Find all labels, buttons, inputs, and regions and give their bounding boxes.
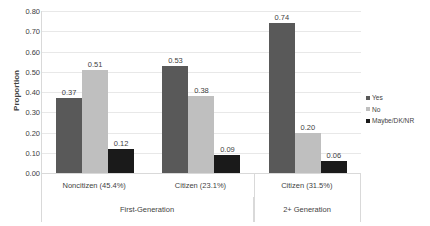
y-axis-tick-label: 0.80 bbox=[18, 7, 40, 16]
y-axis-tick-label: 0.60 bbox=[18, 47, 40, 56]
y-axis-tick-labels: 0.800.700.600.500.400.300.200.100.00 bbox=[18, 0, 40, 226]
category-group-label: 2+ Generation bbox=[253, 197, 360, 222]
bar-groups: 0.370.510.120.530.380.090.740.200.06 bbox=[42, 11, 361, 173]
bar-slot: 0.20 bbox=[295, 11, 321, 173]
bar-value-label: 0.12 bbox=[103, 139, 139, 148]
bar-slot: 0.51 bbox=[82, 11, 108, 173]
group-axis-row: First-Generation2+ Generation bbox=[41, 197, 360, 222]
plot-area: 0.370.510.120.530.380.090.740.200.06 bbox=[41, 11, 360, 173]
y-axis-tick-label: 0.20 bbox=[18, 128, 40, 137]
square-marker-light-gray bbox=[366, 107, 370, 111]
category-group-label: First-Generation bbox=[41, 197, 253, 222]
axis-separator bbox=[41, 173, 42, 222]
bar-slot: 0.09 bbox=[214, 11, 240, 173]
bar-slot: 0.06 bbox=[321, 11, 347, 173]
bar-value-label: 0.09 bbox=[209, 145, 245, 154]
bar[interactable] bbox=[321, 161, 347, 173]
bar[interactable] bbox=[214, 155, 240, 173]
y-axis-tick-label: 0.70 bbox=[18, 27, 40, 36]
y-axis-tick-label: 0.30 bbox=[18, 108, 40, 117]
bar[interactable] bbox=[82, 70, 108, 173]
y-axis-tick-label: 0.10 bbox=[18, 148, 40, 157]
square-marker-dark-gray bbox=[366, 96, 370, 100]
legend-label: No bbox=[372, 106, 380, 113]
bar-group-inner: 0.740.200.06 bbox=[269, 11, 347, 173]
legend-label: Maybe/DK/NR bbox=[372, 117, 414, 124]
legend-item[interactable]: Maybe/DK/NR bbox=[366, 117, 414, 124]
y-axis-tick-label: 0.40 bbox=[18, 88, 40, 97]
grouped-bar-chart: Proportion 0.800.700.600.500.400.300.200… bbox=[0, 0, 430, 226]
bar-group-inner: 0.530.380.09 bbox=[162, 11, 240, 173]
bar-group-inner: 0.370.510.12 bbox=[56, 11, 134, 173]
bar[interactable] bbox=[269, 23, 295, 173]
bar-group: 0.530.380.09 bbox=[148, 11, 254, 173]
legend-item[interactable]: No bbox=[366, 106, 414, 113]
bar-slot: 0.74 bbox=[269, 11, 295, 173]
square-marker-black bbox=[366, 119, 370, 123]
bar[interactable] bbox=[162, 66, 188, 173]
bar-group: 0.370.510.12 bbox=[42, 11, 148, 173]
bar-value-label: 0.06 bbox=[316, 151, 352, 160]
bar-slot: 0.37 bbox=[56, 11, 82, 173]
bar[interactable] bbox=[108, 149, 134, 173]
category-axis-row: Noncitizen (45.4%)Citizen (23.1%)Citizen… bbox=[41, 173, 360, 197]
bar[interactable] bbox=[56, 98, 82, 173]
category-label: Noncitizen (45.4%) bbox=[41, 174, 147, 197]
axis-separator bbox=[360, 173, 361, 222]
bar-slot: 0.12 bbox=[108, 11, 134, 173]
y-axis-tick-label: 0.50 bbox=[18, 67, 40, 76]
chart-legend: YesNoMaybe/DK/NR bbox=[366, 94, 414, 124]
axis-separator bbox=[254, 173, 255, 222]
bar-group: 0.740.200.06 bbox=[255, 11, 361, 173]
legend-item[interactable]: Yes bbox=[366, 94, 414, 101]
category-label: Citizen (23.1%) bbox=[147, 174, 253, 197]
bar[interactable] bbox=[188, 96, 214, 173]
y-axis-tick-label: 0.00 bbox=[18, 169, 40, 178]
category-label: Citizen (31.5%) bbox=[254, 174, 360, 197]
legend-label: Yes bbox=[372, 94, 383, 101]
